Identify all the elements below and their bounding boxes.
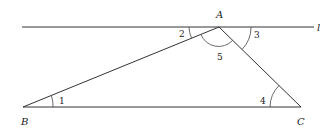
angle-5-arc [201,35,233,47]
angle-2-arc [189,27,192,38]
angle-4-label: 4 [260,96,266,106]
point-b-label: B [20,116,28,127]
point-c-label: C [297,116,305,127]
side-ac [219,27,301,107]
triangle-diagram: A B C l 1 2 3 4 5 [0,0,336,133]
side-ab [23,27,219,107]
point-a-label: A [215,9,223,20]
angle-2-label: 2 [179,29,185,39]
line-l-label: l [317,22,320,33]
angle-1-arc [52,96,54,107]
angle-3-label: 3 [254,30,260,40]
angle-1-label: 1 [59,96,65,106]
angle-4-arc [270,86,279,108]
angle-5-label: 5 [217,52,223,62]
angle-3-arc [242,27,251,50]
